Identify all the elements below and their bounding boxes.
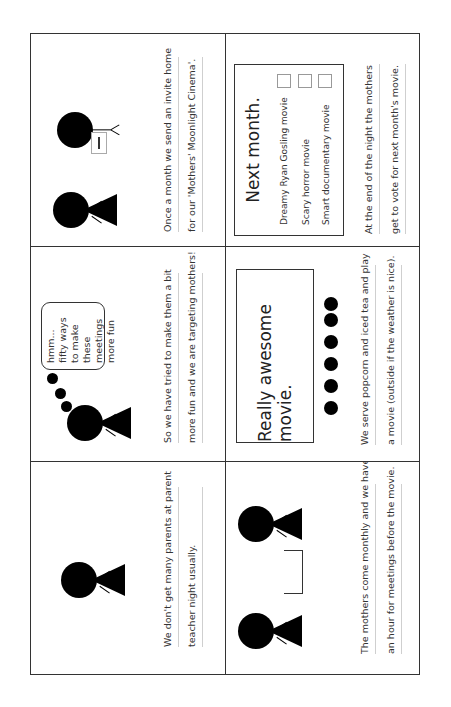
caption-line: Once a month we send an invite home bbox=[161, 57, 179, 232]
caption-line: get to vote for next month's movie. bbox=[388, 64, 406, 234]
audience-member bbox=[324, 335, 338, 349]
storyboard-grid: We don't get many parents at parent teac… bbox=[30, 33, 420, 675]
panel-5: Really awesome movie. We serve popcorn a… bbox=[226, 247, 420, 461]
movie-screen: Really awesome movie. bbox=[236, 269, 314, 443]
caption-line: We don't get many parents at parent bbox=[161, 487, 179, 647]
figure-leg bbox=[110, 129, 119, 135]
caption-line: The mothers come monthly and we have bbox=[358, 484, 376, 654]
audience-member bbox=[324, 379, 338, 393]
panel-2: hmm... fifty ways to make these meetings… bbox=[31, 247, 225, 461]
panel-1: We don't get many parents at parent teac… bbox=[31, 462, 225, 674]
movie-screen-text: Really awesome movie. bbox=[255, 270, 295, 442]
caption-line: teacher night usually. bbox=[185, 487, 203, 647]
audience-member bbox=[324, 313, 338, 327]
thought-dot bbox=[55, 388, 66, 399]
caption-line: a movie (outside if the weather is nice)… bbox=[384, 265, 402, 445]
audience-member bbox=[324, 357, 338, 371]
meeting-table bbox=[284, 550, 303, 594]
panel-4: The mothers come monthly and we have an … bbox=[226, 462, 420, 674]
thought-bubble: hmm... fifty ways to make these meetings… bbox=[41, 302, 105, 370]
invite-letter bbox=[91, 132, 107, 154]
invite-line bbox=[98, 137, 100, 149]
vote-card-title: Next month. bbox=[243, 65, 263, 235]
audience-member bbox=[324, 401, 338, 415]
thought-dot bbox=[61, 401, 72, 412]
vote-checkbox[interactable] bbox=[298, 74, 312, 88]
vote-card: Next month. Dreamy Ryan Gosling movie Sc… bbox=[234, 64, 344, 236]
caption-line: At the end of the night the mothers bbox=[362, 64, 380, 234]
audience-member bbox=[324, 297, 338, 311]
caption-line: an hour for meetings before the movie. bbox=[384, 484, 402, 654]
storyboard-canvas: We don't get many parents at parent teac… bbox=[0, 0, 451, 707]
vote-checkbox[interactable] bbox=[318, 74, 332, 88]
vote-option-label: Dreamy Ryan Gosling movie bbox=[279, 97, 289, 225]
caption-line: more fun and we are targeting mothers! bbox=[185, 273, 203, 443]
panel-3: Once a month we send an invite home for … bbox=[31, 34, 225, 246]
vote-option-label: Scary horror movie bbox=[301, 139, 311, 225]
figure-body bbox=[93, 129, 111, 130]
caption-line: So we have tried to make them a bit bbox=[161, 273, 179, 443]
caption-line: for our 'Mothers' Moonlight Cinema'. bbox=[185, 57, 203, 232]
vote-checkbox[interactable] bbox=[277, 74, 291, 88]
thought-dot bbox=[47, 373, 58, 384]
panel-6: Next month. Dreamy Ryan Gosling movie Sc… bbox=[226, 34, 420, 246]
caption-line: We serve popcorn and iced tea and play bbox=[358, 265, 376, 445]
vote-option-label: Smart documentary movie bbox=[321, 104, 331, 225]
figure-head bbox=[57, 112, 93, 148]
